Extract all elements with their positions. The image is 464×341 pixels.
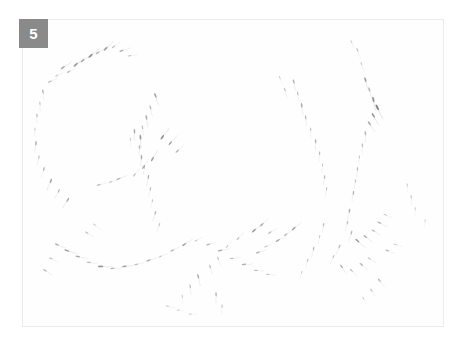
- particle-group-lower-left-band: [43, 223, 276, 276]
- particle-group-left-vertical-chain: [34, 89, 69, 208]
- particle-group-right-vertical-chain-a: [279, 76, 328, 197]
- panel-index-badge: 5: [19, 19, 48, 48]
- particle-group-center-bottom-cluster: [165, 218, 301, 315]
- screenshot-root: 5 Microscopy field panel 5: sparse dark …: [0, 0, 464, 341]
- particle-group-upper-left-arc: [48, 41, 137, 83]
- figure-panel: [22, 19, 444, 327]
- particle-group-right-lower-cluster: [299, 183, 425, 304]
- particle-group-right-vertical-chain-b: [350, 40, 384, 202]
- figure-alt-text: Microscopy field panel 5: sparse dark co…: [0, 0, 1, 1]
- particle-field-canvas: [23, 20, 443, 326]
- particle-group-center-vertical-chain: [130, 93, 161, 232]
- panel-index-label: 5: [29, 26, 38, 41]
